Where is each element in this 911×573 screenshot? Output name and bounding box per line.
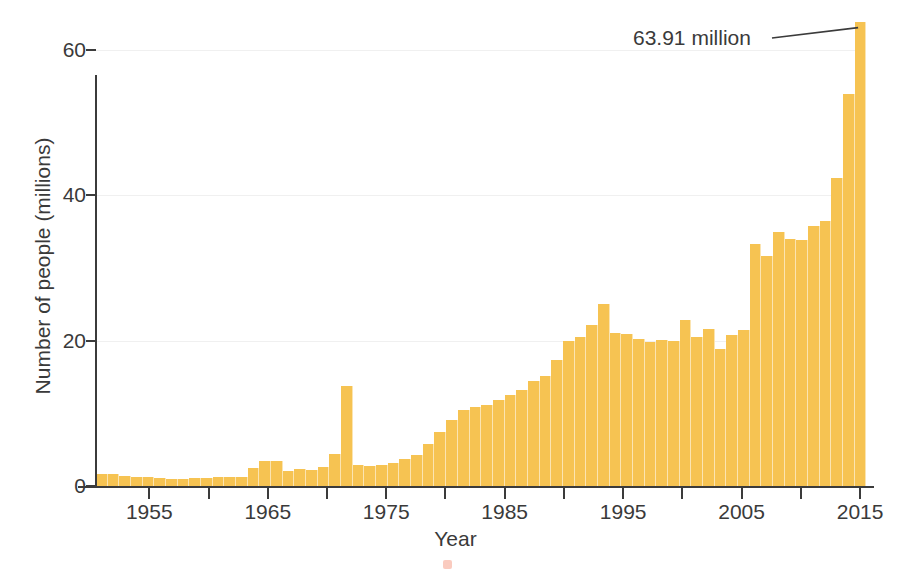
bar [259,461,271,486]
bar [364,466,376,486]
bar [668,341,680,486]
bar [399,459,411,486]
bar [831,178,843,486]
bar [493,400,505,486]
x-tick-mark-minor [800,488,802,499]
bar [551,360,563,486]
bar [236,477,248,486]
bar [796,240,808,486]
bar-series [96,21,866,486]
bar [715,349,727,486]
x-tick-mark-major [859,488,861,499]
x-tick-mark-major [267,488,269,499]
x-tick-mark-minor [563,488,565,499]
bar [750,244,762,486]
bar [691,337,703,486]
bar [621,334,633,486]
bar [586,325,598,486]
y-axis-line [95,75,97,488]
y-tick-mark [86,485,96,487]
x-axis-title: Year [0,527,911,551]
bar [108,474,120,486]
y-tick-mark [86,49,96,51]
bar [855,22,867,486]
bar [376,465,388,486]
bar [213,477,225,486]
bar [773,232,785,486]
bar [119,476,131,486]
bar [224,477,236,486]
bar [598,304,610,486]
bar [201,478,213,486]
bar [189,478,201,486]
bar [843,94,855,486]
x-tick-label: 1985 [481,500,528,524]
bar [575,337,587,486]
x-tick-mark-minor [681,488,683,499]
x-tick-label: 1965 [244,500,291,524]
bar [458,410,470,486]
bar [808,226,820,486]
x-tick-label: 1975 [363,500,410,524]
bar [633,339,645,486]
bar [528,381,540,486]
y-tick-label: 0 [22,474,86,498]
bar [785,239,797,486]
x-tick-mark-major [741,488,743,499]
bar [166,479,178,486]
bar [388,463,400,486]
x-tick-mark-major [385,488,387,499]
x-tick-mark-minor [326,488,328,499]
x-tick-label: 2005 [718,500,765,524]
bar [446,420,458,486]
bar [645,342,657,486]
x-tick-mark-minor [444,488,446,499]
bar [820,221,832,486]
bar [353,465,365,486]
bar [434,432,446,486]
x-tick-label: 1995 [600,500,647,524]
bar [738,330,750,486]
bar [411,455,423,486]
y-axis-title: Number of people (millions) [31,86,55,446]
scan-artifact [443,560,452,569]
x-tick-label: 1955 [126,500,173,524]
bar [680,320,692,486]
y-tick-mark [86,194,96,196]
bar [154,478,166,486]
bar [505,395,517,486]
bar [283,471,295,486]
bar [329,454,341,486]
bar [306,470,318,486]
y-tick-label: 60 [22,38,86,62]
bar [294,469,306,486]
bar [610,333,622,486]
x-tick-label: 2015 [837,500,884,524]
bar [318,467,330,486]
x-tick-mark-major [148,488,150,499]
bar [423,444,435,486]
bar [540,376,552,486]
bar [703,329,715,486]
y-tick-mark [86,340,96,342]
x-axis-line [78,486,874,488]
annotation-label: 63.91 million [633,26,751,50]
bar [178,479,190,486]
bar [96,474,108,486]
bar [131,477,143,486]
bar [341,386,353,486]
x-tick-mark-major [504,488,506,499]
bar [248,468,260,486]
bar [656,340,668,486]
bar [563,341,575,486]
bar [761,256,773,486]
chart-page: 0204060 1955196519751985199520052015 Num… [0,0,911,573]
bar [516,390,528,486]
bar [143,477,155,486]
bar [271,461,283,486]
plot-area [96,21,866,486]
bar [470,407,482,486]
x-tick-mark-major [622,488,624,499]
bar [726,335,738,486]
x-tick-mark-minor [208,488,210,499]
